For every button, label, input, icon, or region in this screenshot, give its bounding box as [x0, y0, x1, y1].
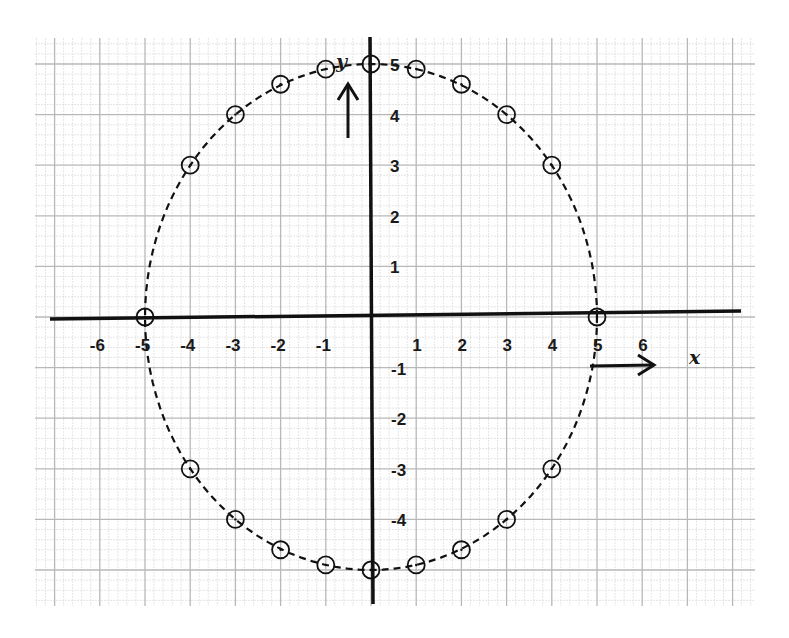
y-tick-label: 4 — [390, 107, 400, 126]
x-direction-arrow-icon — [590, 355, 654, 375]
y-tick-label: -1 — [391, 360, 406, 379]
data-point-dot — [551, 468, 553, 470]
data-point-dot — [596, 316, 598, 318]
data-point-dot — [189, 164, 191, 166]
x-tick-label: -3 — [225, 336, 240, 355]
x-tick-label: -2 — [271, 336, 286, 355]
x-tick-label: -1 — [316, 336, 331, 355]
data-point-dot — [370, 63, 372, 65]
data-point-dot — [460, 549, 462, 551]
x-axis-label: x — [688, 346, 701, 368]
x-tick-label: 5 — [593, 336, 602, 355]
y-tick-label: 3 — [390, 157, 399, 176]
data-point-dot — [325, 564, 327, 566]
y-tick-label: -4 — [391, 511, 407, 530]
circle-plot: -6-5-4-3-2-112345654321-1-2-3-4 y x — [0, 0, 789, 638]
y-tick-label: -2 — [391, 410, 406, 429]
data-point-dot — [279, 549, 281, 551]
x-tick-label: -4 — [180, 336, 196, 355]
data-point-dot — [189, 468, 191, 470]
x-tick-label: 4 — [548, 336, 558, 355]
x-tick-label: -6 — [90, 336, 105, 355]
y-tick-label: 2 — [390, 208, 399, 227]
data-point-dot — [415, 564, 417, 566]
data-point-dot — [144, 316, 146, 318]
y-tick-label: 1 — [390, 258, 399, 277]
y-tick-label: 5 — [390, 56, 399, 75]
y-tick-label: -3 — [391, 461, 406, 480]
data-point-dot — [415, 68, 417, 70]
data-point-dot — [505, 518, 507, 520]
x-tick-label: 6 — [638, 336, 647, 355]
x-tick-label: 2 — [457, 336, 466, 355]
y-axis-label: y — [335, 50, 349, 72]
x-tick-label: -5 — [135, 336, 150, 355]
data-point-dot — [551, 164, 553, 166]
data-point-dot — [325, 68, 327, 70]
y-direction-arrow-icon — [338, 84, 358, 138]
x-tick-label: 3 — [503, 336, 512, 355]
x-tick-label: 1 — [412, 336, 421, 355]
data-point-dot — [370, 569, 372, 571]
data-point-dot — [460, 83, 462, 85]
data-point-dot — [234, 518, 236, 520]
data-point-dot — [234, 113, 236, 115]
graph-paper-figure: -6-5-4-3-2-112345654321-1-2-3-4 y x — [0, 0, 789, 638]
data-point-dot — [279, 83, 281, 85]
data-point-dot — [505, 113, 507, 115]
